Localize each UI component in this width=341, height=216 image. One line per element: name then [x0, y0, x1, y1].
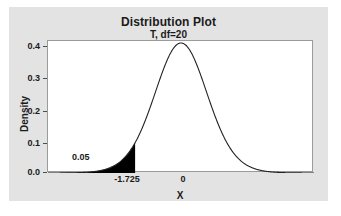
chart-title: Distribution Plot: [9, 16, 328, 29]
x-axis-label: X: [47, 190, 313, 201]
x-tick-label-zero: 0: [166, 174, 200, 184]
distribution-plot-figure: Distribution Plot T, df=20 0.4 0.3 0.2 0…: [0, 0, 341, 216]
y-tick-mark-0.0: [43, 172, 47, 173]
y-tick-label-0.1: 0.1: [4, 138, 40, 148]
y-tick-label-0.3: 0.3: [4, 73, 40, 83]
shaded-tail-region: [48, 143, 135, 173]
y-tick-label-0.0: 0.0: [4, 167, 40, 177]
shaded-area-label: 0.05: [72, 152, 90, 162]
x-tick-label-critical: -1.725: [101, 174, 153, 184]
y-tick-label-0.4: 0.4: [4, 41, 40, 51]
y-axis-label: Density: [19, 96, 30, 132]
